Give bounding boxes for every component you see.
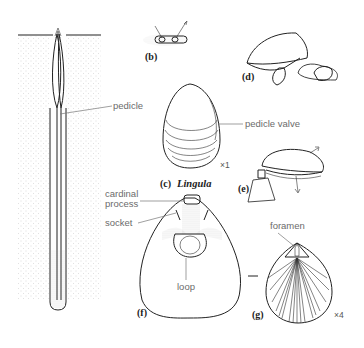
panel-c-scale: ×1	[220, 160, 230, 170]
panel-f-label: (f)	[137, 307, 147, 319]
panel-d-label: (d)	[242, 71, 254, 83]
panel-f-interior: cardinal process socket loop (f)	[105, 188, 241, 319]
pedicle-label: pedicle	[113, 100, 143, 111]
panel-d: (d)	[242, 33, 337, 85]
panel-g-scale: ×4	[334, 310, 344, 320]
cardinal-label-2: process	[105, 198, 139, 209]
panel-e-label: (e)	[238, 183, 249, 195]
pedicle-valve-label: pedicle valve	[245, 118, 300, 129]
panel-g-shell: foramen (g) ×4	[252, 220, 344, 323]
panel-e: (e)	[238, 147, 324, 202]
panel-c-genus: Lingula	[176, 178, 211, 189]
figure-canvas: pedicle (b) pedicle valve ×1 (c) Lingula…	[0, 0, 364, 348]
loop	[174, 234, 207, 257]
brachiopod-figure: pedicle (b) pedicle valve ×1 (c) Lingula…	[0, 0, 364, 348]
panel-a-burrow: pedicle	[18, 28, 143, 312]
loop-label: loop	[177, 281, 195, 292]
panel-b-label: (b)	[145, 51, 157, 63]
panel-c-label: (c)	[160, 178, 171, 190]
panel-c-lingula: pedicle valve ×1 (c) Lingula	[160, 84, 300, 190]
panel-g-label: (g)	[252, 309, 264, 321]
panel-b: (b)	[143, 21, 187, 63]
foramen-label: foramen	[270, 220, 305, 231]
socket-label: socket	[105, 217, 133, 228]
